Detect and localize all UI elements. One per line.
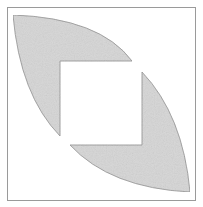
- upper-left-region: [13, 15, 132, 136]
- lower-right-region: [70, 72, 190, 192]
- geometry-figure: [0, 0, 203, 207]
- diagram-canvas: [0, 0, 203, 207]
